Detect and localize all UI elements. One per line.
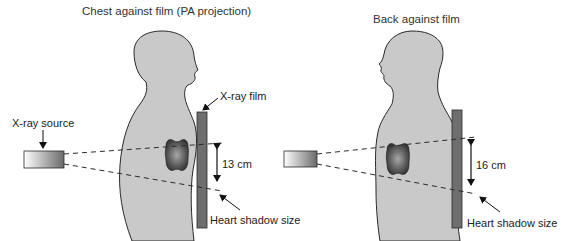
label-measurement-ap: 16 cm: [476, 160, 506, 171]
label-xray-source: X-ray source: [12, 118, 74, 129]
xray-source-pa: [24, 151, 64, 168]
panel-pa: [24, 31, 240, 241]
diagram-graphics: [0, 0, 564, 241]
film-pointer-arrow: [203, 98, 218, 110]
panel-title-ap: Back against film: [373, 14, 460, 26]
shadow-pointer-arrow-ap: [480, 197, 500, 212]
heart-ap: [386, 144, 409, 175]
heart-pa: [165, 140, 188, 171]
xray-source-ap: [284, 151, 317, 167]
body-silhouette-pa: [120, 31, 199, 241]
label-xray-film: X-ray film: [220, 91, 266, 102]
shadow-pointer-arrow-pa: [220, 195, 240, 210]
body-silhouette-ap: [376, 31, 461, 241]
diagram: Chest against film (PA projection) X-ray…: [0, 0, 564, 241]
panel-title-pa: Chest against film (PA projection): [82, 6, 251, 18]
label-heart-shadow-ap: Heart shadow size: [467, 218, 558, 229]
label-measurement-pa: 13 cm: [222, 159, 252, 170]
xray-film-pa: [197, 112, 207, 228]
panel-ap: [284, 31, 500, 241]
xray-film-ap: [452, 110, 462, 228]
label-heart-shadow-pa: Heart shadow size: [210, 215, 301, 226]
